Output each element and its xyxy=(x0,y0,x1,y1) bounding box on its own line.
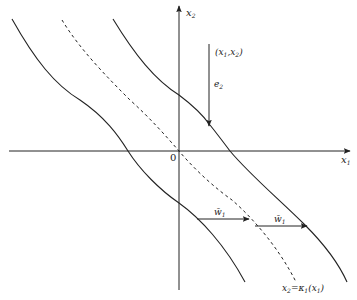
w1-label-right: w̄1 xyxy=(274,214,286,225)
origin-label: 0 xyxy=(170,152,176,163)
w1-label-left: w̄1 xyxy=(214,207,226,218)
phase-plane-diagram: x1 x2 0 (x1,x2) e2 w̄1 w̄1 x2=κ1(x1) xyxy=(0,0,357,300)
e2-label: e2 xyxy=(214,79,223,90)
x2-axis-label: x2 xyxy=(186,7,196,19)
x1-axis-label: x1 xyxy=(341,154,350,166)
point-label: (x1,x2) xyxy=(215,47,243,58)
manifold-label: x2=κ1(x1) xyxy=(282,283,325,294)
